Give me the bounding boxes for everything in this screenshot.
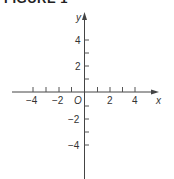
x-axis-label: x xyxy=(155,95,162,106)
y-tick-label: 2 xyxy=(75,61,81,72)
x-axis-arrow-icon xyxy=(151,90,159,95)
y-tick-label: −4 xyxy=(68,140,80,151)
y-axis-label: y xyxy=(75,12,82,23)
coordinate-plane: y x O −4 −2 2 4 4 2 −2 −4 xyxy=(0,0,174,179)
x-tick-label: 4 xyxy=(132,95,138,106)
x-tick-label: 2 xyxy=(107,95,113,106)
origin-label: O xyxy=(74,95,82,106)
y-tick-label: 4 xyxy=(75,35,81,46)
y-axis-arrow-icon xyxy=(82,12,87,20)
x-tick-label: −4 xyxy=(26,95,38,106)
y-tick-label: −2 xyxy=(68,114,80,125)
x-tick-label: −2 xyxy=(52,95,64,106)
